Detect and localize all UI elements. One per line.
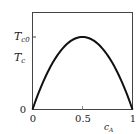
tc-curve <box>33 37 133 110</box>
x-axis-label: cA <box>104 122 114 133</box>
x-tick-label-0.5: 0.5 <box>75 113 91 124</box>
x-tick-label-1: 1 <box>130 113 136 124</box>
y-tick-label-0: 0 <box>20 104 26 115</box>
x-tick-label-0: 0 <box>30 113 36 124</box>
y-label-tc: Tc <box>14 51 25 65</box>
plot-frame <box>33 13 133 110</box>
y-tick-label-tc0: Tc0 <box>14 30 30 44</box>
chart: 0 Tc0 Tc 0 0.5 1 cA <box>0 0 140 134</box>
